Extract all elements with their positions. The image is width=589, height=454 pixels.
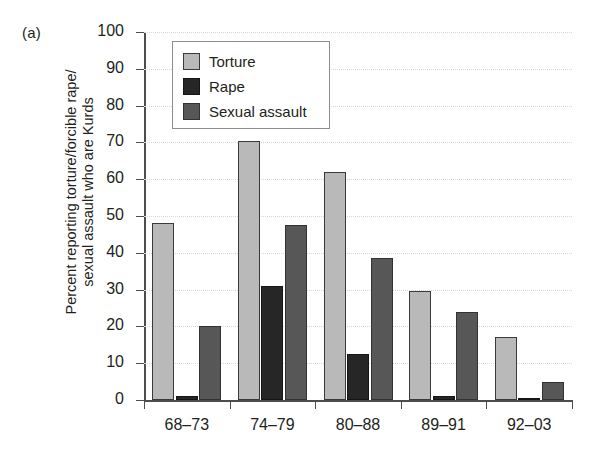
y-axis-tick: 30 [136, 290, 144, 291]
x-axis-tick [315, 400, 316, 409]
x-axis-tick [572, 400, 573, 409]
y-axis-tick-label: 40 [106, 243, 124, 261]
y-axis-tick: 70 [136, 142, 144, 143]
bar-rape-92-03 [518, 398, 540, 400]
legend-item-torture[interactable]: Torture [183, 49, 329, 74]
x-axis-tick [401, 400, 402, 409]
x-axis-tick [486, 400, 487, 409]
bar-rape-80-88 [347, 354, 369, 400]
y-axis-tick-label: 70 [106, 132, 124, 150]
gridline [144, 142, 572, 143]
y-axis-tick: 90 [136, 69, 144, 70]
x-axis-line [144, 400, 572, 402]
x-axis-tick [230, 400, 231, 409]
x-axis-tick-label: 89–91 [421, 416, 466, 434]
legend-swatch-torture [183, 53, 200, 70]
x-axis-tick-label: 68–73 [165, 416, 210, 434]
legend-label-sexual-assault: Sexual assault [209, 103, 307, 120]
bar-torture-89-91 [409, 291, 431, 400]
y-axis-title-line-1: Percent reporting torture/forcible rape/ [63, 70, 80, 315]
bar-sexual-assault-89-91 [456, 312, 478, 400]
bar-rape-68-73 [176, 396, 198, 400]
legend-item-rape[interactable]: Rape [183, 74, 329, 99]
x-axis-tick [144, 400, 145, 409]
legend-label-torture: Torture [209, 53, 256, 70]
y-axis-tick: 80 [136, 106, 144, 107]
legend-swatch-sexual-assault [183, 103, 200, 120]
bar-torture-80-88 [324, 172, 346, 400]
gridline [144, 32, 572, 33]
x-axis-tick-label: 92–03 [507, 416, 552, 434]
gridline [144, 179, 572, 180]
y-axis-tick-label: 30 [106, 280, 124, 298]
bar-sexual-assault-92-03 [542, 382, 564, 400]
y-axis-tick: 60 [136, 179, 144, 180]
y-axis-tick: 20 [136, 326, 144, 327]
x-axis-tick-label: 80–88 [336, 416, 381, 434]
y-axis-tick-label: 80 [106, 96, 124, 114]
bar-torture-74-79 [238, 141, 260, 400]
legend-item-sexual-assault[interactable]: Sexual assault [183, 99, 329, 124]
y-axis-tick-label: 50 [106, 206, 124, 224]
y-axis-tick-label: 20 [106, 316, 124, 334]
y-axis-tick: 50 [136, 216, 144, 217]
bar-sexual-assault-80-88 [371, 258, 393, 400]
y-axis-title-line-2: sexual assault who are Kurds [80, 97, 97, 286]
bar-rape-89-91 [433, 396, 455, 400]
bar-rape-74-79 [261, 286, 283, 400]
gridline [144, 253, 572, 254]
y-axis-tick-label: 100 [97, 22, 124, 40]
figure-panel-a: (a) Percent reporting torture/forcible r… [0, 0, 589, 454]
panel-label: (a) [22, 24, 41, 41]
y-axis-tick: 40 [136, 253, 144, 254]
y-axis-tick-label: 90 [106, 59, 124, 77]
gridline [144, 290, 572, 291]
gridline [144, 216, 572, 217]
y-axis-tick: 0 [136, 400, 144, 401]
legend-label-rape: Rape [209, 78, 245, 95]
y-axis-tick-label: 10 [106, 353, 124, 371]
bar-sexual-assault-68-73 [199, 326, 221, 400]
chart-legend: TortureRapeSexual assault [172, 41, 330, 129]
y-axis-title: Percent reporting torture/forcible rape/… [58, 0, 102, 392]
bar-torture-68-73 [152, 223, 174, 400]
y-axis-tick: 100 [136, 32, 144, 33]
bar-sexual-assault-74-79 [285, 225, 307, 400]
y-axis-tick-label: 0 [115, 390, 124, 408]
y-axis-tick-label: 60 [106, 169, 124, 187]
y-axis-tick: 10 [136, 363, 144, 364]
x-axis-tick-label: 74–79 [250, 416, 295, 434]
legend-swatch-rape [183, 78, 200, 95]
bar-torture-92-03 [495, 337, 517, 400]
